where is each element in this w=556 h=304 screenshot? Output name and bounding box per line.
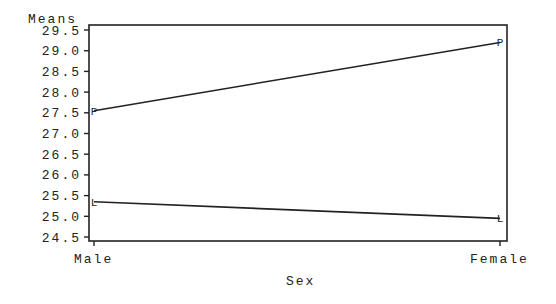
series-marker-p: P <box>497 37 504 49</box>
y-tick-label: 28.0 <box>42 86 81 101</box>
y-tick-label: 25.0 <box>42 210 81 225</box>
y-tick-label: 25.5 <box>42 189 81 204</box>
plot-frame <box>89 25 507 241</box>
y-tick-label: 27.0 <box>42 127 81 142</box>
y-tick-label: 28.5 <box>42 65 81 80</box>
series-marker-l: L <box>91 197 98 209</box>
y-tick-label: 26.0 <box>42 168 81 183</box>
series-line-p <box>94 42 500 110</box>
series-marker-l: L <box>497 213 504 225</box>
series-marker-p: P <box>91 106 98 118</box>
y-tick-label: 26.5 <box>42 148 81 163</box>
y-tick-label: 29.0 <box>42 44 81 59</box>
y-tick-label: 29.5 <box>42 24 81 39</box>
line-chart: 24.525.025.526.026.527.027.528.028.529.0… <box>0 0 556 304</box>
y-tick-label: 24.5 <box>42 231 81 246</box>
series-line-l <box>94 202 500 219</box>
y-tick-label: 27.5 <box>42 106 81 121</box>
